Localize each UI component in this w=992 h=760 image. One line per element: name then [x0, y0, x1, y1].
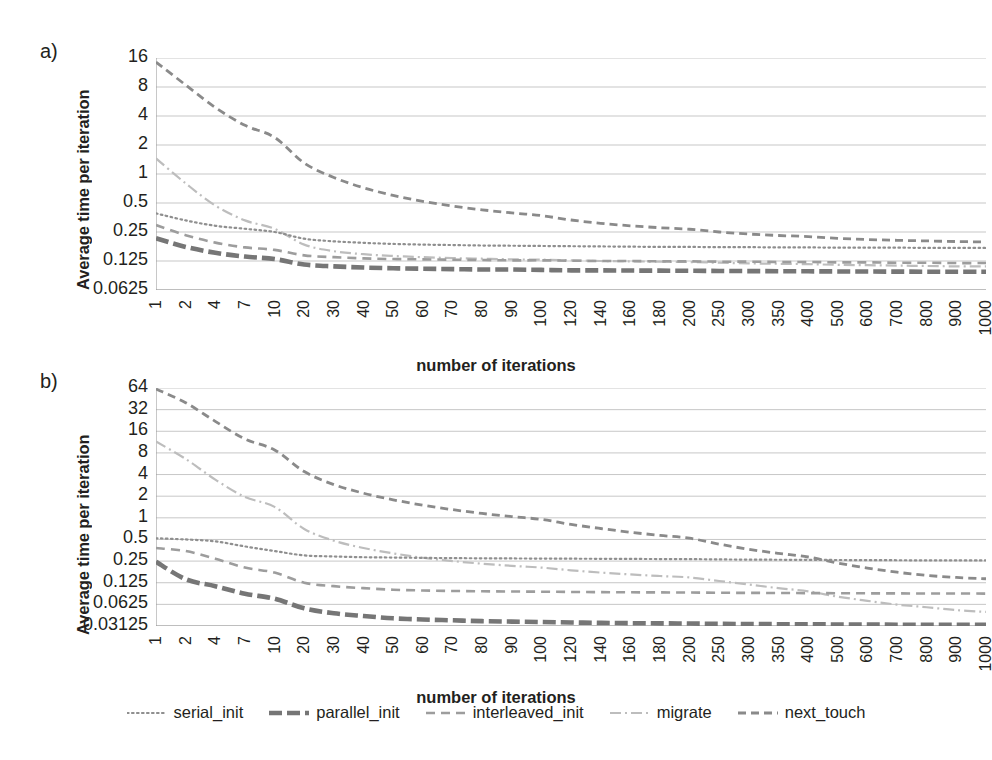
x-tick-label: 300	[741, 300, 757, 327]
x-tick-label: 80	[474, 300, 490, 318]
series-line-serial-init	[156, 213, 986, 248]
x-tick-label: 10	[267, 636, 283, 654]
legend-label: migrate	[657, 703, 712, 722]
x-tick-label: 800	[919, 636, 935, 663]
x-tick-label: 250	[711, 636, 727, 663]
panel-b-y-axis-title: Average time per iteration	[74, 395, 93, 635]
x-tick-label: 250	[711, 300, 727, 327]
y-tick-label: 2	[138, 134, 148, 152]
x-tick-label: 80	[474, 636, 490, 654]
y-tick-label: 16	[128, 47, 148, 65]
y-tick-label: 16	[128, 420, 148, 438]
series-line-migrate	[156, 442, 986, 612]
x-tick-label: 160	[622, 636, 638, 663]
x-tick-label: 2	[178, 636, 194, 645]
panel-b: b) Average time per iteration 6432168421…	[0, 370, 992, 690]
panel-a-y-axis-title: Average time per iteration	[74, 50, 93, 290]
y-tick-label: 8	[138, 76, 148, 94]
x-tick-label: 1000	[978, 636, 992, 672]
x-tick-label: 100	[533, 636, 549, 663]
x-tick-label: 900	[948, 636, 964, 663]
panel-b-plot-area	[156, 388, 986, 626]
figure-container: a) Average time per iteration 1684210.50…	[0, 0, 992, 760]
x-tick-label: 30	[326, 300, 342, 318]
x-tick-label: 20	[296, 300, 312, 318]
x-tick-label: 600	[859, 636, 875, 663]
x-tick-label: 7	[237, 300, 253, 309]
legend-swatch-serial-init	[127, 707, 167, 719]
x-tick-label: 70	[444, 636, 460, 654]
x-tick-label: 90	[504, 636, 520, 654]
x-tick-label: 7	[237, 636, 253, 645]
y-tick-label: 1	[138, 163, 148, 181]
x-tick-label: 160	[622, 300, 638, 327]
panel-a-chart-svg	[156, 58, 986, 290]
y-tick-label: 0.25	[113, 550, 148, 568]
x-tick-label: 20	[296, 636, 312, 654]
panel-a: a) Average time per iteration 1684210.50…	[0, 0, 992, 370]
x-tick-label: 1000	[978, 300, 992, 336]
y-tick-label: 4	[138, 105, 148, 123]
x-tick-label: 10	[267, 300, 283, 318]
panel-a-plot-area	[156, 58, 986, 290]
legend-swatch-parallel-init	[269, 707, 309, 719]
y-tick-label: 0.125	[103, 572, 148, 590]
legend-item-serial-init[interactable]: serial_init	[127, 703, 244, 722]
x-tick-label: 90	[504, 300, 520, 318]
y-tick-label: 2	[138, 485, 148, 503]
x-tick-label: 50	[385, 636, 401, 654]
y-tick-label: 0.5	[123, 528, 148, 546]
x-tick-label: 100	[533, 300, 549, 327]
x-tick-label: 140	[593, 636, 609, 663]
x-tick-label: 1	[148, 300, 164, 309]
legend-swatch-next-touch	[738, 707, 778, 719]
legend-swatch-interleaved-init	[426, 707, 466, 719]
x-tick-label: 200	[682, 636, 698, 663]
series-line-interleaved-init	[156, 225, 986, 263]
series-line-next-touch	[156, 389, 986, 579]
x-tick-label: 4	[207, 636, 223, 645]
legend-label: serial_init	[174, 703, 244, 722]
x-tick-label: 300	[741, 636, 757, 663]
y-tick-label: 0.25	[113, 221, 148, 239]
x-tick-label: 40	[356, 300, 372, 318]
legend-item-migrate[interactable]: migrate	[610, 703, 712, 722]
y-tick-label: 32	[128, 399, 148, 417]
x-tick-label: 350	[771, 636, 787, 663]
x-tick-label: 30	[326, 636, 342, 654]
y-tick-label: 0.125	[103, 250, 148, 268]
x-tick-label: 700	[889, 636, 905, 663]
x-tick-label: 500	[830, 636, 846, 663]
y-tick-label: 0.5	[123, 192, 148, 210]
x-tick-label: 120	[563, 636, 579, 663]
y-tick-label: 0.03125	[83, 615, 148, 633]
y-tick-label: 0.0625	[93, 593, 148, 611]
x-tick-label: 4	[207, 300, 223, 309]
x-tick-label: 2	[178, 300, 194, 309]
x-tick-label: 350	[771, 300, 787, 327]
series-line-parallel-init	[156, 238, 986, 271]
legend-item-next-touch[interactable]: next_touch	[738, 703, 866, 722]
x-tick-label: 1	[148, 636, 164, 645]
legend-label: next_touch	[785, 703, 866, 722]
x-tick-label: 40	[356, 636, 372, 654]
x-tick-label: 400	[800, 636, 816, 663]
legend-label: interleaved_init	[473, 703, 584, 722]
legend-item-parallel-init[interactable]: parallel_init	[269, 703, 399, 722]
x-tick-label: 60	[415, 300, 431, 318]
x-tick-label: 600	[859, 300, 875, 327]
panel-b-chart-svg	[156, 388, 986, 626]
x-tick-label: 200	[682, 300, 698, 327]
series-line-serial-init	[156, 538, 986, 560]
x-tick-label: 900	[948, 300, 964, 327]
legend-label: parallel_init	[316, 703, 399, 722]
x-tick-label: 50	[385, 300, 401, 318]
y-tick-label: 0.0625	[93, 279, 148, 297]
x-tick-label: 700	[889, 300, 905, 327]
x-tick-label: 60	[415, 636, 431, 654]
x-tick-label: 800	[919, 300, 935, 327]
legend-item-interleaved-init[interactable]: interleaved_init	[426, 703, 584, 722]
y-tick-label: 1	[138, 507, 148, 525]
series-line-next-touch	[156, 62, 986, 242]
chart-legend: serial_initparallel_initinterleaved_init…	[0, 703, 992, 722]
